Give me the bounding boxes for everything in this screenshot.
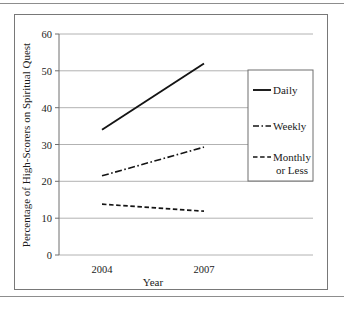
series-line-monthly-or-less: [102, 204, 204, 211]
y-tick-label-50: 50: [42, 66, 53, 77]
legend: Daily Weekly Monthly or Less: [248, 70, 313, 181]
y-tick-label-60: 60: [42, 29, 53, 40]
figure-frame: 60 50 40 30 20 10 0 Percentage of High-S…: [14, 14, 328, 290]
y-axis: [55, 34, 59, 255]
y-tick-label-30: 30: [42, 140, 53, 151]
line-chart: 60 50 40 30 20 10 0 Percentage of High-S…: [15, 15, 327, 289]
series-line-daily: [102, 64, 204, 130]
legend-label-weekly: Weekly: [273, 120, 307, 132]
page-rule-top: [0, 3, 344, 4]
x-tick-label-2007: 2007: [194, 264, 215, 275]
series-line-weekly: [102, 147, 204, 176]
y-tick-label-10: 10: [42, 213, 53, 224]
y-tick-label-40: 40: [42, 103, 53, 114]
page-rule-bottom: [0, 296, 344, 297]
legend-label-monthly: Monthly: [273, 151, 311, 163]
x-tick-label-2004: 2004: [92, 264, 114, 275]
y-axis-title: Percentage of High-Scorers on Spiritual …: [20, 43, 32, 247]
x-tick-labels: 2004 2007: [92, 264, 215, 275]
legend-label-or-less: or Less: [276, 164, 308, 176]
y-tick-label-0: 0: [47, 250, 52, 261]
x-axis-title: Year: [143, 276, 164, 288]
y-tick-labels: 60 50 40 30 20 10 0: [42, 29, 53, 261]
y-tick-label-20: 20: [42, 176, 53, 187]
legend-label-daily: Daily: [273, 84, 298, 96]
